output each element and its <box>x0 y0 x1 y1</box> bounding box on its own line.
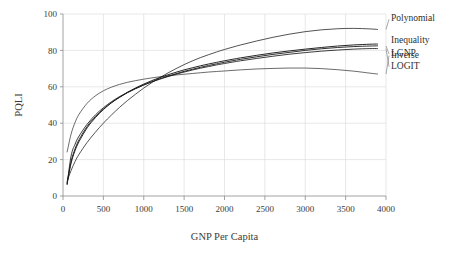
leader-line-polynomial <box>386 19 389 29</box>
chart-figure: 0204060801000500100015002000250030003500… <box>0 0 452 257</box>
x-tick-label: 2000 <box>216 204 235 214</box>
curve-inverse <box>67 68 378 152</box>
series-label-logit: LOGIT <box>391 61 420 71</box>
curve-lgnp <box>67 46 378 183</box>
y-tick-label: 20 <box>48 155 58 165</box>
y-tick-label: 40 <box>48 118 58 128</box>
y-tick-label: 0 <box>53 191 58 201</box>
y-tick-label: 100 <box>44 9 58 19</box>
series-label-lgnp: LGNP <box>391 48 416 58</box>
series-label-polynomial: Polynomial <box>391 13 435 23</box>
x-tick-label: 3500 <box>337 204 356 214</box>
curves-group <box>67 28 378 185</box>
y-tick-label: 80 <box>48 46 58 56</box>
y-tick-label: 60 <box>48 82 58 92</box>
series-label-inequality: Inequality <box>391 35 430 45</box>
x-tick-label: 1000 <box>135 204 154 214</box>
pqli-gnp-line-chart: 0204060801000500100015002000250030003500… <box>0 0 452 257</box>
x-tick-label: 3000 <box>296 204 315 214</box>
x-tick-label: 2500 <box>256 204 275 214</box>
axes-group <box>60 14 386 200</box>
y-axis-title: PQLI <box>13 93 24 117</box>
tick-labels-group: 0204060801000500100015002000250030003500… <box>44 9 396 214</box>
x-axis-title: GNP Per Capita <box>191 231 259 242</box>
series-labels-group: InversePolynomialInequalityLGNPLOGIT <box>391 13 435 70</box>
x-tick-label: 500 <box>97 204 111 214</box>
x-tick-label: 0 <box>61 204 66 214</box>
curve-polynomial <box>67 28 378 181</box>
curve-inequality <box>67 44 378 184</box>
gridlines-group <box>63 14 386 196</box>
x-tick-label: 1500 <box>175 204 194 214</box>
x-tick-label: 4000 <box>377 204 396 214</box>
leader-lines-group <box>386 19 389 74</box>
